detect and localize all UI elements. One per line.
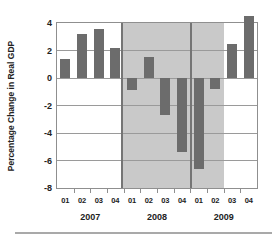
y-tick-label: -6 (32, 156, 52, 166)
y-axis-title: Percentage Change in Real GDP (6, 41, 16, 171)
x-tick-mark (157, 189, 158, 193)
y-tick-label: -2 (32, 101, 52, 111)
x-tick-mark (107, 189, 108, 193)
x-tick-mark (140, 189, 141, 193)
bar (194, 78, 204, 169)
gdp-bar-chart-figure: Percentage Change in Real GDP 420-2-4-6-… (0, 0, 276, 241)
bar (160, 78, 170, 115)
y-tick-label: 2 (32, 46, 52, 56)
x-tick-mark (224, 189, 225, 193)
bar (177, 78, 187, 152)
year-label: 2007 (70, 212, 110, 222)
gridline (57, 160, 257, 161)
y-tick-label: 4 (32, 18, 52, 28)
quarter-label: 04 (174, 196, 191, 205)
quarter-label: 01 (57, 196, 74, 205)
plot-area (56, 22, 258, 189)
quarter-label: 02 (207, 196, 224, 205)
bar (127, 78, 137, 90)
bar (227, 44, 237, 78)
gridline (57, 133, 257, 134)
quarter-label: 04 (107, 196, 124, 205)
quarter-label: 01 (124, 196, 141, 205)
bottom-rule (15, 232, 272, 234)
bar (244, 16, 254, 78)
quarter-label: 03 (90, 196, 107, 205)
bar (94, 29, 104, 79)
quarter-label: 03 (224, 196, 241, 205)
x-tick-mark (174, 189, 175, 193)
y-tick-label: 0 (32, 73, 52, 83)
x-tick-mark (190, 189, 191, 193)
bar (60, 59, 70, 78)
y-tick-label: -4 (32, 128, 52, 138)
x-tick-mark (240, 189, 241, 193)
bar (210, 78, 220, 89)
quarter-label: 02 (140, 196, 157, 205)
x-tick-mark (207, 189, 208, 193)
year-label: 2009 (204, 212, 244, 222)
year-divider-line (121, 23, 123, 188)
quarter-label: 01 (190, 196, 207, 205)
y-tick-label: -8 (32, 183, 52, 193)
x-tick-mark (90, 189, 91, 193)
x-tick-mark (124, 189, 125, 193)
x-tick-mark (74, 189, 75, 193)
gridline (57, 105, 257, 106)
quarter-label: 03 (157, 196, 174, 205)
year-divider-line (190, 23, 192, 188)
bar (110, 48, 120, 78)
bar (144, 57, 154, 78)
quarter-label: 02 (74, 196, 91, 205)
bar (77, 34, 87, 78)
quarter-label: 04 (240, 196, 257, 205)
year-label: 2008 (137, 212, 177, 222)
